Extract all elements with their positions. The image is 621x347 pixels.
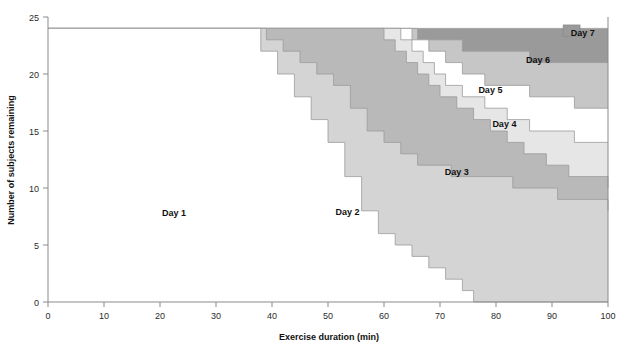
series-label-day-7: Day 7 xyxy=(571,28,595,38)
series-label-day-5: Day 5 xyxy=(478,85,502,95)
stacked-area-bands xyxy=(48,25,608,302)
x-axis-title: Exercise duration (min) xyxy=(279,332,379,342)
series-label-day-4: Day 4 xyxy=(492,119,516,129)
x-tick-label: 50 xyxy=(323,311,333,321)
series-label-day-3: Day 3 xyxy=(445,167,469,177)
survival-curve-chart: 01020304050607080901000510152025 Day 1Da… xyxy=(0,0,621,347)
series-label-day-2: Day 2 xyxy=(336,207,360,217)
y-tick-label: 20 xyxy=(29,70,39,80)
series-label-day-1: Day 1 xyxy=(162,208,186,218)
x-tick-label: 70 xyxy=(435,311,445,321)
chart-canvas: 01020304050607080901000510152025 Day 1Da… xyxy=(0,0,621,347)
y-tick-label: 25 xyxy=(29,13,39,23)
x-tick-label: 90 xyxy=(547,311,557,321)
series-label-day-6: Day 6 xyxy=(526,55,550,65)
y-tick-label: 0 xyxy=(34,298,39,308)
x-tick-label: 40 xyxy=(267,311,277,321)
y-tick-label: 10 xyxy=(29,184,39,194)
x-tick-label: 10 xyxy=(99,311,109,321)
x-tick-label: 30 xyxy=(211,311,221,321)
x-tick-label: 0 xyxy=(45,311,50,321)
x-tick-label: 100 xyxy=(600,311,615,321)
x-tick-label: 60 xyxy=(379,311,389,321)
y-tick-label: 15 xyxy=(29,127,39,137)
y-axis-title: Number of subjects remaining xyxy=(6,95,16,225)
x-tick-label: 80 xyxy=(491,311,501,321)
x-tick-label: 20 xyxy=(155,311,165,321)
y-tick-label: 5 xyxy=(34,241,39,251)
